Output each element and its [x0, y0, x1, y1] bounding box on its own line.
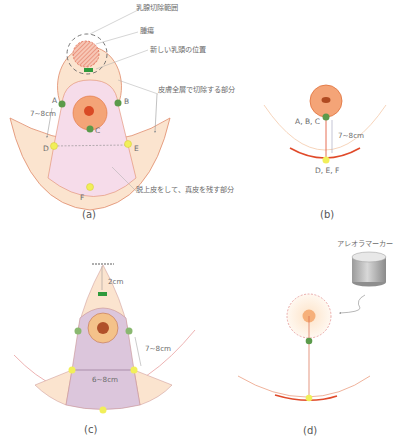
right-flap [134, 370, 172, 405]
breast-reduction-diagram: A B C D E F 7~8cm 乳腺切除範囲 腫瘍 新しい乳頭の位置 皮膚全… [0, 0, 397, 443]
label-f: F [80, 193, 84, 202]
new-nipple-mark [98, 292, 107, 296]
marker-arrow [340, 295, 365, 313]
panel-b: A, B, C D, E, F 7~8cm (b) [264, 85, 386, 220]
left-flap [35, 370, 72, 405]
label-deepithelialized: 脱上皮をして、真皮を残す部分 [136, 185, 234, 194]
new-nipple-mark [84, 68, 93, 72]
measure-label: 7~8cm [338, 131, 364, 140]
point-def [323, 157, 330, 164]
point-a [75, 328, 82, 335]
point-b [126, 328, 133, 335]
label-a: A [52, 96, 58, 105]
point-f [87, 184, 94, 191]
measure-2cm: 2cm [108, 277, 124, 286]
point-c [87, 126, 94, 133]
label-e: E [134, 144, 139, 153]
point-e [131, 367, 138, 374]
measure-label: 7~8cm [30, 109, 56, 118]
incision-line [290, 148, 360, 158]
measure-side-arrow [135, 337, 141, 366]
tumor [73, 41, 99, 67]
point-b [115, 100, 122, 107]
measure-width: 6~8cm [92, 375, 118, 384]
areola-marker-icon [352, 252, 386, 287]
label-def: D, E, F [315, 166, 339, 175]
point-d [51, 143, 58, 150]
point-d [69, 367, 76, 374]
caption-c: (c) [84, 424, 97, 435]
point-a [59, 101, 66, 108]
nipple [322, 97, 331, 103]
label-mastectomy-range: 乳腺切除範囲 [136, 3, 178, 12]
breast-contour [238, 376, 370, 397]
point-f [100, 407, 107, 414]
panel-d: アレオラマーカー (d) [238, 239, 393, 436]
point-e [125, 141, 132, 148]
caption-a: (a) [82, 209, 96, 220]
nipple [84, 106, 94, 116]
leader-mastectomy [90, 9, 140, 34]
point-green [306, 338, 313, 345]
label-new-nipple: 新しい乳頭の位置 [150, 45, 206, 54]
label-tumor: 腫瘍 [140, 26, 154, 35]
measure-side: 7~8cm [145, 344, 171, 353]
label-full-thickness: 皮膚全層で切除する部分 [158, 85, 235, 94]
panel-a: A B C D E F 7~8cm 乳腺切除範囲 腫瘍 新しい乳頭の位置 皮膚全… [10, 3, 235, 220]
caption-b: (b) [320, 209, 334, 220]
nipple [97, 322, 109, 334]
label-d: D [43, 144, 49, 153]
panel-c: 2cm 7~8cm 6~8cm (c) [14, 264, 195, 435]
leader-full-thickness [118, 80, 158, 94]
caption-d: (d) [303, 425, 317, 436]
label-c: C [95, 126, 100, 135]
label-b: B [124, 97, 129, 106]
label-abc: A, B, C [295, 117, 320, 126]
point-abc [323, 114, 330, 121]
point-yellow [306, 395, 313, 402]
label-areola-marker: アレオラマーカー [337, 239, 393, 248]
leader-tumor [96, 32, 138, 44]
